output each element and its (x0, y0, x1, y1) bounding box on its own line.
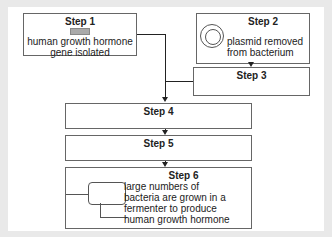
step-4-box: Step 4 (65, 103, 252, 129)
step-6-line-3: fermenter to produce (124, 203, 230, 214)
step-4-title: Step 4 (66, 106, 251, 117)
arrow-to-step-6 (162, 162, 168, 167)
arrow-to-step-5 (162, 130, 168, 135)
step-5-title: Step 5 (66, 138, 251, 149)
step-1-line-1: human growth hormone (24, 36, 136, 47)
fermenter-icon (88, 182, 126, 205)
arrow-to-step-4 (162, 97, 168, 102)
arrow-to-step-3 (248, 62, 254, 67)
step-3-title: Step 3 (194, 70, 309, 81)
step-6-box: Step 6 large numbers of bacteria are gro… (65, 167, 252, 229)
step-6-title: Step 6 (116, 170, 251, 181)
step-2-title: Step 2 (217, 16, 309, 27)
step-5-box: Step 5 (65, 135, 252, 161)
step-3-box: Step 3 (193, 67, 310, 96)
step-6-line-2: bacteria are grown in a (124, 192, 230, 203)
step-1-title: Step 1 (24, 16, 136, 27)
connector-step1-h (137, 34, 166, 35)
connector-step3-h (165, 81, 193, 82)
step-2-box: Step 2 plasmid removed from bacterium (196, 13, 310, 64)
fermenter-inlet-icon (66, 194, 88, 195)
step-2-line-1: plasmid removed (227, 36, 303, 47)
step-1-box: Step 1 human growth hormone gene isolate… (23, 13, 137, 56)
connector-step1-v (165, 34, 166, 98)
gene-icon (70, 28, 90, 35)
plasmid-icon (200, 24, 224, 48)
step-2-line-2: from bacterium (227, 47, 294, 58)
step-6-line-1: large numbers of (124, 181, 230, 192)
step-1-line-2: gene isolated (24, 47, 136, 58)
fermenter-pipe-icon (100, 203, 127, 218)
step-6-line-4: human growth hormone (124, 214, 230, 225)
